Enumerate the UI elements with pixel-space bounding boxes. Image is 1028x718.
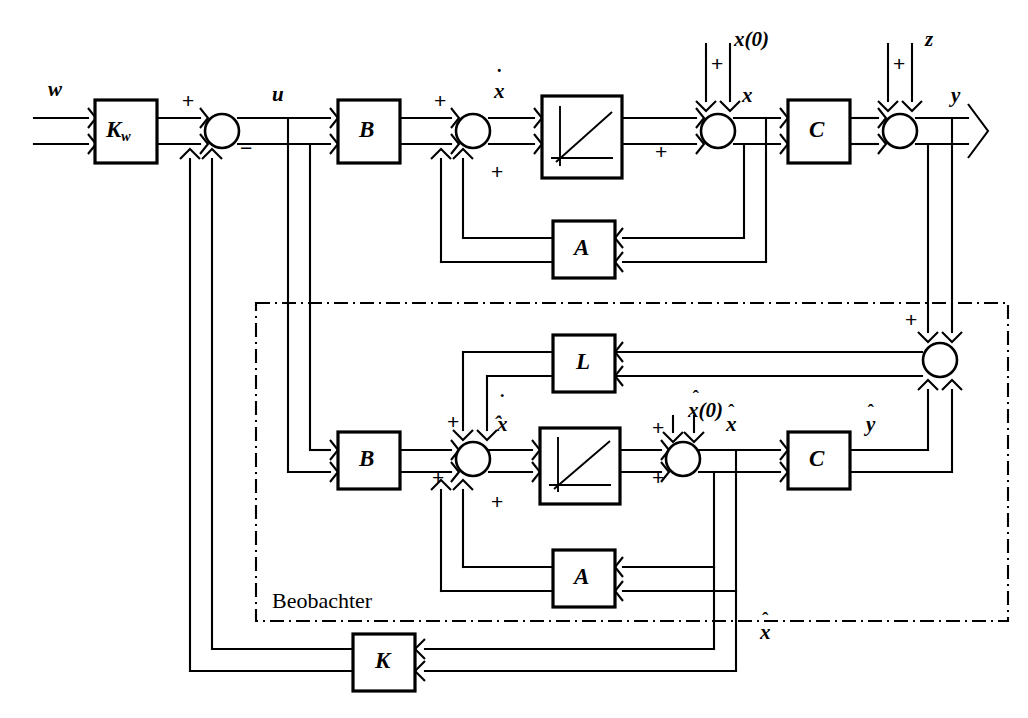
signal-label-xhat: ̂x [726, 412, 737, 437]
sign-minus-sum-u: − [240, 136, 252, 160]
signal-label-xhat0: ̂x(0) [688, 398, 723, 423]
sign-plus-z: + [893, 52, 905, 76]
sign-plus-err-top: + [905, 308, 917, 332]
junction-sum-y [883, 114, 917, 148]
junction-sum-xdot [456, 114, 490, 148]
sign-plus-a-fb: + [491, 160, 503, 184]
wire-bobs-to-sumxhdot [400, 440, 459, 482]
junction-sum-err [923, 343, 957, 377]
wire-bplant-to-sumxdot [400, 108, 459, 154]
signal-label-z: z [925, 27, 933, 52]
wire-kw-to-sumu [157, 108, 208, 154]
block-label-b-plant: B [359, 117, 374, 143]
signal-label-x: x [742, 83, 753, 108]
junction-sum-xhdot [456, 442, 490, 476]
block-label-c-plant: C [809, 117, 824, 143]
sign-plus-l-in: + [447, 410, 459, 434]
sign-plus-b-obs: + [432, 466, 444, 490]
junction-sum-x [701, 114, 735, 148]
block-label-b-obs: B [359, 446, 374, 472]
block-label-kw: Kw [106, 117, 131, 145]
signal-label-yhat: ̂y [866, 412, 875, 437]
sign-plus-kw-out: + [182, 89, 194, 113]
sign-plus-b-out: + [434, 89, 446, 113]
wire-sumxhdot-to-intobs [489, 440, 540, 482]
block-integrator-plant [542, 96, 622, 178]
wire-y-output [916, 104, 988, 342]
signal-label-w: w [48, 77, 62, 102]
wire-sumxdot-to-integrator [489, 108, 542, 154]
signal-label-x0: x(0) [734, 27, 769, 52]
block-label-k: K [375, 648, 390, 674]
block-label-a-plant: A [574, 235, 589, 261]
wire-u-bus [238, 108, 338, 482]
block-diagram-canvas: .ln{stroke:#000;stroke-width:2.1;fill:no… [0, 0, 1028, 718]
block-integrator-observer [540, 428, 620, 504]
observer-region-label: Beobachter [272, 588, 372, 614]
diagram-svg: .ln{stroke:#000;stroke-width:2.1;fill:no… [0, 0, 1028, 718]
signal-label-xhatdot: ̇̂x [497, 412, 508, 437]
signal-label-xhat-feedback: ̂x [760, 620, 771, 645]
junction-sum-xhat [666, 442, 700, 476]
wire-w-to-kw [34, 108, 96, 154]
sign-plus-int-obs: + [652, 466, 664, 490]
signal-label-xdot: ̇x [494, 79, 505, 104]
sign-plus-int-out: + [655, 140, 667, 164]
sign-minus-err: − [905, 364, 917, 388]
block-label-c-obs: C [809, 446, 824, 472]
signal-label-y: y [951, 83, 960, 108]
sign-plus-a-obs: + [491, 490, 503, 514]
block-label-a-obs: A [574, 564, 589, 590]
sign-plus-xhat0: + [652, 416, 664, 440]
wire-cplant-to-sumy [850, 108, 886, 154]
wire-sumerr-to-l [615, 342, 922, 386]
junction-sum-u [205, 114, 239, 148]
signal-label-u: u [272, 82, 284, 107]
block-label-l: L [576, 349, 590, 375]
sign-plus-x0: + [711, 52, 723, 76]
